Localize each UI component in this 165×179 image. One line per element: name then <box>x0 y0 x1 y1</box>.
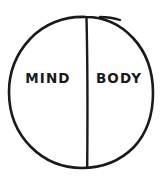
vertical-divider-line <box>87 18 88 168</box>
mind-body-circle-diagram <box>0 0 165 179</box>
circle-outline <box>9 17 153 168</box>
diagram-canvas: MIND BODY <box>0 0 165 179</box>
